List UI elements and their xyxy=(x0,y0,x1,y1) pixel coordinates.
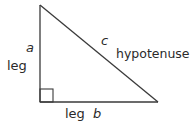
label-hypotenuse: hypotenuse xyxy=(116,46,190,61)
label-leg-vertical: leg xyxy=(7,58,27,73)
right-angle-marker xyxy=(40,89,53,102)
label-leg-horizontal: leg xyxy=(65,106,85,121)
label-b: b xyxy=(93,106,101,121)
right-triangle-diagram: a leg leg b c hypotenuse xyxy=(0,0,194,128)
label-c: c xyxy=(101,33,108,48)
label-a: a xyxy=(26,40,34,55)
